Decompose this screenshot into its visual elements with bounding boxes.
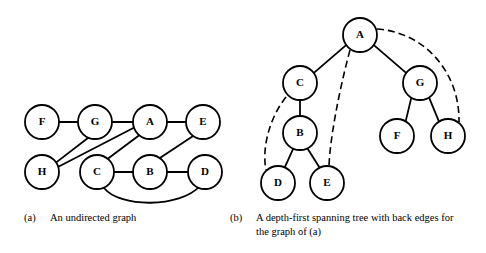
tree-edge-A-C (313, 45, 346, 74)
node-A-label: A (146, 115, 154, 127)
tree-node-D: D (261, 166, 295, 200)
tree-node-H-label: H (444, 129, 453, 141)
node-B-label: B (146, 165, 154, 177)
node-G-label: G (91, 115, 100, 127)
figure-root: F G A E H (0, 0, 486, 253)
node-F: F (25, 105, 59, 139)
tree-node-B: B (283, 116, 317, 150)
tree-node-H: H (431, 119, 465, 153)
node-H-label: H (38, 165, 47, 177)
tree-node-F-label: F (394, 129, 401, 141)
caption-a-text: An undirected graph (50, 211, 136, 225)
tree-edge-A-G (373, 45, 406, 74)
node-B: B (133, 155, 167, 189)
panel-a-edges (55, 122, 200, 203)
node-E-label: E (199, 115, 206, 127)
node-C: C (80, 155, 114, 189)
caption-panel-b: (b)A depth-first spanning tree with back… (230, 211, 456, 239)
node-C-label: C (93, 165, 101, 177)
tree-node-G: G (403, 66, 437, 100)
caption-b-tag: (b) (230, 211, 256, 225)
node-D: D (188, 155, 222, 189)
caption-b-text: A depth-first spanning tree with back ed… (256, 211, 456, 239)
node-G: G (78, 105, 112, 139)
tree-node-B-label: B (296, 126, 304, 138)
node-F-label: F (39, 115, 46, 127)
caption-panel-a: (a)An undirected graph (24, 211, 136, 225)
back-edge-A-E (329, 50, 350, 166)
tree-edge-B-E (308, 149, 319, 167)
tree-node-A-label: A (356, 28, 364, 40)
tree-node-A: A (343, 18, 377, 52)
tree-edge-G-F (406, 97, 412, 121)
panel-a-undirected-graph: F G A E H (25, 105, 222, 203)
node-H: H (25, 155, 59, 189)
tree-node-E-label: E (323, 176, 330, 188)
tree-edge-G-H (429, 98, 439, 121)
tree-node-G-label: G (416, 76, 425, 88)
tree-node-C-label: C (296, 76, 304, 88)
tree-node-C: C (283, 66, 317, 100)
tree-node-F: F (380, 119, 414, 153)
node-E: E (186, 105, 220, 139)
tree-edge-B-D (285, 149, 293, 166)
tree-node-D-label: D (274, 176, 282, 188)
node-D-label: D (201, 165, 209, 177)
edge-E-B (160, 136, 194, 158)
tree-node-E: E (310, 166, 344, 200)
node-A: A (133, 105, 167, 139)
panel-b-spanning-tree: A C G B F (261, 18, 465, 200)
caption-a-tag: (a) (24, 211, 50, 225)
